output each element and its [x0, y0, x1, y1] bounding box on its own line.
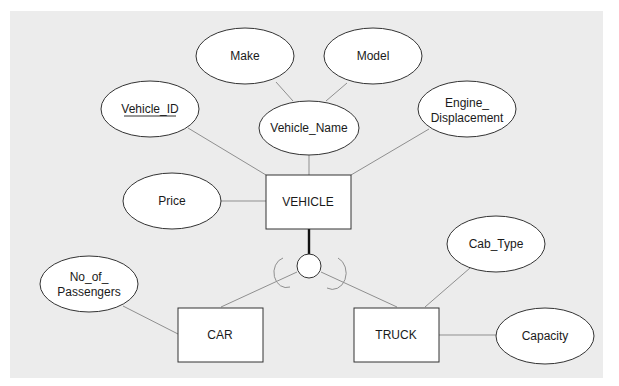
- attribute-cab-type[interactable]: Cab_Type: [447, 216, 545, 272]
- entity-vehicle[interactable]: VEHICLE: [266, 175, 351, 229]
- attribute-label: Make: [230, 49, 260, 63]
- attribute-label-line1: No_of_: [70, 270, 109, 284]
- attribute-label-line2: Passengers: [57, 285, 120, 299]
- entity-car[interactable]: CAR: [178, 308, 263, 362]
- entity-truck[interactable]: TRUCK: [354, 308, 439, 362]
- attribute-no-of-passengers[interactable]: No_of_ Passengers: [40, 256, 138, 312]
- attribute-vehicle-id[interactable]: Vehicle_ID: [101, 81, 199, 137]
- specialization-circle[interactable]: [297, 254, 321, 278]
- attribute-label: Vehicle_Name: [270, 121, 348, 135]
- attribute-price[interactable]: Price: [123, 173, 221, 229]
- er-diagram: Make Model Vehicle_ID Vehicle_Name Engin…: [0, 0, 619, 386]
- key-attribute-label: Vehicle_ID: [121, 102, 179, 116]
- attribute-label-line2: Displacement: [431, 111, 504, 125]
- attribute-label: Cab_Type: [469, 237, 524, 251]
- attribute-capacity[interactable]: Capacity: [496, 308, 594, 364]
- attribute-label-line1: Engine_: [445, 96, 489, 110]
- attribute-vehicle-name[interactable]: Vehicle_Name: [259, 101, 359, 155]
- attribute-model[interactable]: Model: [324, 28, 422, 84]
- attribute-label: Model: [357, 49, 390, 63]
- entity-label: CAR: [207, 328, 233, 342]
- attribute-label: Capacity: [522, 329, 569, 343]
- entity-label: VEHICLE: [282, 195, 333, 209]
- entity-label: TRUCK: [375, 328, 416, 342]
- attribute-make[interactable]: Make: [196, 28, 294, 84]
- attribute-label: Price: [158, 194, 186, 208]
- attribute-engine-displacement[interactable]: Engine_ Displacement: [418, 81, 516, 137]
